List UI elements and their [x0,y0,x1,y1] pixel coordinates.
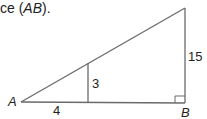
vertex-b-label: B [181,106,190,119]
small-base-label: 4 [53,104,60,118]
base-line [21,102,185,103]
right-angle-marker [175,96,185,103]
small-height-label: 3 [92,77,99,91]
large-height-label: 15 [188,50,202,64]
vertex-a-label: A [8,95,17,109]
hypotenuse [21,8,185,102]
triangle-diagram [0,0,207,119]
